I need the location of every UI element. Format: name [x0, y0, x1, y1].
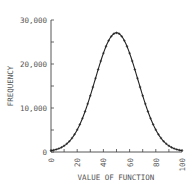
x-tick-label: 80: [152, 158, 161, 168]
y-tick-label: 10,000: [20, 104, 48, 113]
x-tick-label: 40: [99, 158, 108, 168]
frequency-curve: [51, 33, 182, 151]
x-tick-label: 100: [178, 158, 187, 172]
y-tick-label: 20,000: [20, 60, 48, 69]
plot-area: [50, 32, 184, 152]
x-tick-label: 0: [47, 158, 56, 163]
x-axis-title: VALUE OF FUNCTION: [78, 173, 155, 182]
y-ticks: 010,00020,00030,000: [20, 16, 54, 157]
x-axis: 020406080100 VALUE OF FUNCTION: [47, 149, 187, 182]
x-tick-label: 20: [73, 158, 82, 168]
y-axis: 010,00020,00030,000 FREQUENCY: [6, 16, 54, 157]
chart: 010,00020,00030,000 FREQUENCY 0204060801…: [0, 0, 196, 189]
y-tick-label: 30,000: [20, 16, 48, 25]
y-tick-label: 0: [42, 148, 47, 157]
x-tick-label: 60: [126, 158, 135, 168]
data-markers: [50, 32, 184, 152]
y-axis-title: FREQUENCY: [6, 65, 15, 106]
